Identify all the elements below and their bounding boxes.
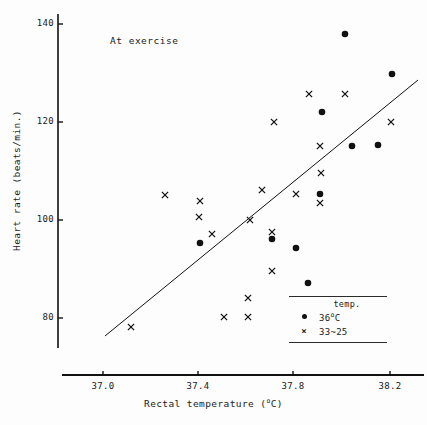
y-tick-label-1: 120	[22, 116, 54, 126]
data-point-x-1-17	[317, 143, 323, 149]
y-tick-label-0: 140	[22, 18, 54, 28]
x-axis-label: Rectal temperature (oC)	[0, 397, 427, 409]
data-point-dot-0-5	[319, 109, 326, 116]
data-point-x-1-10	[269, 229, 275, 235]
data-point-dot-0-4	[317, 191, 324, 198]
data-point-dot-0-6	[342, 31, 349, 38]
scatter-plot	[0, 0, 427, 425]
x-axis-label-tail: C)	[271, 398, 283, 409]
x-tick-label-2: 37.8	[273, 381, 313, 391]
data-point-dot-0-3	[305, 280, 312, 287]
legend-label-dot: 36oC	[319, 311, 340, 323]
figure-container: 14012010080 37.037.437.838.2 Heart rate …	[0, 0, 427, 425]
data-point-x-1-6	[245, 314, 251, 320]
data-point-x-1-16	[317, 200, 323, 206]
legend-row-dot: 36oC	[289, 309, 387, 324]
legend-label-dot-tail: C	[335, 313, 341, 323]
x-tick-label-3: 38.2	[370, 381, 410, 391]
x-axis-label-main: Rectal temperature (	[144, 398, 266, 409]
legend-bottom-rule	[289, 342, 387, 343]
data-point-x-1-18	[342, 91, 348, 97]
data-point-x-1-14	[306, 91, 312, 97]
legend-title: temp.	[289, 297, 387, 309]
data-point-dot-0-1	[269, 236, 276, 243]
x-tick-label-1: 37.4	[178, 381, 218, 391]
legend-label-x: 33~25	[319, 327, 348, 337]
data-point-x-1-13	[293, 191, 299, 197]
legend-marker-dot-icon	[289, 312, 319, 321]
data-point-x-1-1	[162, 192, 168, 198]
data-point-x-1-0	[128, 324, 134, 330]
legend: temp. 36oC × 33~25	[289, 296, 387, 343]
data-point-x-1-19	[388, 119, 394, 125]
data-point-x-1-3	[196, 214, 202, 220]
data-point-x-1-9	[259, 187, 265, 193]
legend-marker-x-icon: ×	[289, 327, 319, 336]
data-point-x-1-2	[197, 198, 203, 204]
data-point-x-1-4	[209, 231, 215, 237]
y-tick-label-3: 80	[22, 312, 54, 322]
legend-label-dot-main: 36	[319, 313, 330, 323]
data-point-x-1-7	[245, 295, 251, 301]
data-point-dot-0-7	[349, 143, 356, 150]
y-tick-label-2: 100	[22, 214, 54, 224]
x-tick-label-0: 37.0	[83, 381, 123, 391]
legend-row-x: × 33~25	[289, 324, 387, 339]
data-point-dot-0-2	[293, 245, 300, 252]
data-point-dot-0-9	[389, 71, 396, 78]
y-axis-label: Heart rate (beats/min.)	[11, 91, 22, 271]
data-point-x-1-15	[318, 170, 324, 176]
data-point-dot-0-0	[197, 240, 204, 247]
annotation-at-exercise: At exercise	[110, 35, 178, 46]
data-point-x-1-5	[221, 314, 227, 320]
data-point-dot-0-8	[375, 142, 382, 149]
data-point-x-1-12	[271, 119, 277, 125]
data-points	[128, 31, 395, 330]
data-point-x-1-11	[269, 268, 275, 274]
